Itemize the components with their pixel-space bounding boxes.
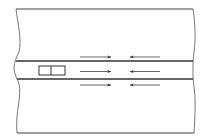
vehicle-body (39, 66, 65, 75)
road-diagram (0, 0, 207, 139)
left-break-line (14, 9, 20, 133)
right-break-line (193, 9, 195, 133)
vehicle (39, 66, 65, 75)
